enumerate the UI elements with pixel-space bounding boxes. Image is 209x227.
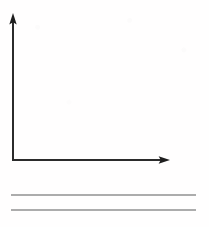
axes-diagram xyxy=(0,0,209,227)
figure-canvas xyxy=(0,0,209,227)
plot-area xyxy=(14,14,160,160)
